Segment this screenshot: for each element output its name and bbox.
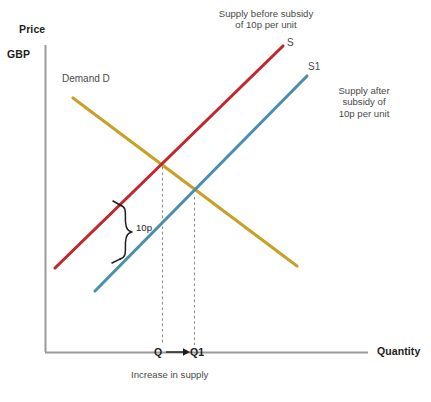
y-axis-title-line1: Price [19,23,45,35]
subsidy-brace-icon [120,205,132,259]
diagram-canvas: Price GBP Quantity Supply before subsidy… [0,0,431,402]
x-axis-title: Quantity [377,345,420,357]
demand-curve [73,98,297,266]
demand-label: Demand D [62,73,110,85]
q-to-q1-arrow-icon [165,344,193,360]
y-axis-title-line2: GBP [7,48,45,60]
shift-caption: Increase in supply [131,369,208,380]
supply-after-curve [95,76,307,291]
supply-before-label: Supply before subsidy of 10p per unit [206,8,326,31]
supply-after-label: Supply after subsidy of 10p per unit [313,85,415,119]
supply-after-tag: S1 [308,61,320,73]
y-axis-title: Price GBP [7,11,45,85]
subsidy-amount-label: 10p [136,222,152,233]
brace-bottom-tick-icon [112,259,121,263]
supply-before-tag: S [287,37,294,49]
q-axis-mark: Q [154,346,162,358]
supply-demand-plot [0,0,431,402]
